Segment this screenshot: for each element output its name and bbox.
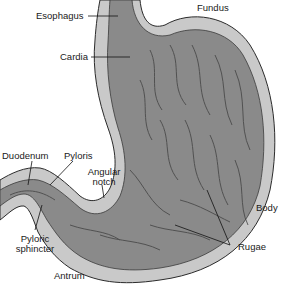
label-pyloris: Pyloris [64,151,93,161]
label-fundus: Fundus [197,3,229,13]
stomach-diagram: Esophagus Fundus Cardia Duodenum Pyloris… [0,0,285,287]
label-angular-notch: Angular notch [84,167,124,187]
label-pyloric-sphincter-line2: sphincter [12,244,58,254]
label-pyloric-sphincter: Pyloric sphincter [12,234,58,254]
label-cardia: Cardia [60,52,88,62]
label-antrum: Antrum [54,271,85,281]
label-angular-notch-line2: notch [84,177,124,187]
label-body: Body [256,203,278,213]
label-duodenum: Duodenum [2,151,48,161]
label-rugae: Rugae [238,242,266,252]
label-esophagus: Esophagus [36,11,84,21]
